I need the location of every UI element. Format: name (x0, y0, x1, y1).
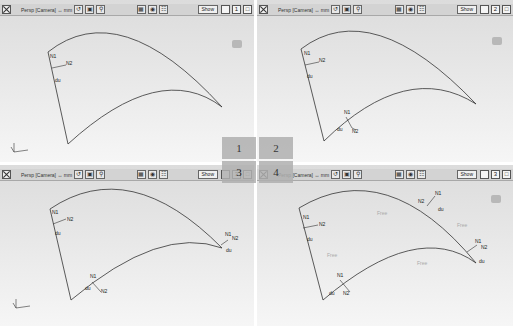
svg-text:N1: N1 (52, 209, 59, 215)
svg-text:N2: N2 (352, 128, 359, 134)
svg-text:du: du (307, 73, 313, 79)
svg-text:N2: N2 (101, 288, 108, 294)
svg-text:N2: N2 (66, 60, 73, 66)
viewport-4[interactable]: Persp [Camera] ↔ mm ↺ ▣ ⚲ ▦ ◉ ☷ Show 3 □… (257, 165, 513, 326)
svg-text:N1: N1 (435, 190, 442, 196)
svg-text:N2: N2 (319, 57, 326, 63)
svg-text:Free: Free (377, 210, 388, 216)
curve-drawing: N1 N2 du N1 N2 du (257, 0, 513, 162)
svg-text:N1: N1 (303, 214, 310, 220)
svg-text:N1: N1 (337, 272, 344, 278)
viewport-select-2[interactable]: 2 (259, 137, 293, 159)
svg-text:N2: N2 (232, 235, 239, 241)
svg-text:Free: Free (417, 260, 428, 266)
svg-text:N1: N1 (90, 273, 97, 279)
curve-drawing: N1 N2 du (0, 0, 254, 162)
svg-text:Free: Free (457, 222, 468, 228)
svg-text:N2: N2 (319, 221, 326, 227)
svg-text:N1: N1 (225, 231, 232, 237)
svg-text:N1: N1 (344, 109, 351, 115)
svg-text:du: du (55, 77, 61, 83)
svg-text:Free: Free (327, 252, 338, 258)
svg-text:du: du (438, 206, 444, 212)
viewport-select-3[interactable]: 3 (222, 161, 256, 183)
svg-text:du: du (226, 247, 232, 253)
viewport-3[interactable]: Persp [Camera] ↔ mm ↺ ▣ ⚲ ▦ ◉ ☷ Show 3 □… (0, 165, 254, 326)
svg-text:du: du (55, 230, 61, 236)
svg-text:N2: N2 (67, 216, 74, 222)
curve-drawing: N1 N2 du N1 N2 du N1 N2 du N1 N2 du Free… (257, 165, 513, 326)
viewport-select-4[interactable]: 4 (259, 161, 293, 183)
svg-text:N2: N2 (343, 290, 350, 296)
quad-viewport-window: Persp [Camera] ↔ mm ↺ ▣ ⚲ ▦ ◉ ☷ Show 1 □… (0, 0, 513, 326)
svg-text:du: du (85, 285, 91, 291)
viewport-layout-selector: 1 2 3 4 (222, 137, 293, 183)
svg-text:du: du (479, 258, 485, 264)
viewport-1[interactable]: Persp [Camera] ↔ mm ↺ ▣ ⚲ ▦ ◉ ☷ Show 1 □… (0, 0, 254, 162)
viewport-2[interactable]: Persp [Camera] ↔ mm ↺ ▣ ⚲ ▦ ◉ ☷ Show 2 □… (257, 0, 513, 162)
svg-text:N2: N2 (481, 244, 488, 250)
viewport-select-1[interactable]: 1 (222, 137, 256, 159)
svg-text:du: du (329, 290, 335, 296)
svg-text:N2: N2 (418, 198, 425, 204)
svg-text:du: du (307, 236, 313, 242)
curve-drawing: N1 N2 du N1 N2 du N1 N2 du (0, 165, 254, 326)
svg-text:du: du (337, 126, 343, 132)
axis-triad-icon (13, 299, 30, 308)
axis-triad-icon (11, 143, 28, 152)
svg-text:N1: N1 (304, 50, 311, 56)
svg-text:N1: N1 (50, 53, 57, 59)
